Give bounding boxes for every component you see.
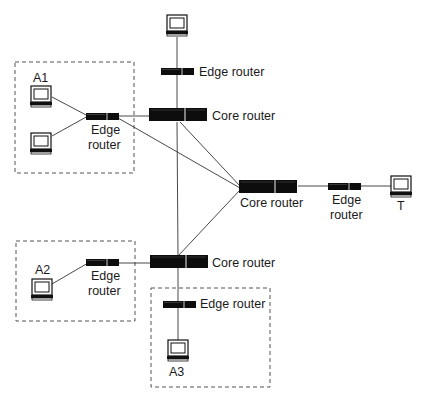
label-core-right: Core router: [240, 196, 303, 210]
edge-router-icon: [163, 301, 196, 308]
label-edge-t-line1: Edge: [332, 193, 361, 207]
label-edge-a2-line1: Edge: [91, 269, 120, 283]
label-edge-a1-line2: router: [88, 138, 121, 152]
edge-router-icon: [328, 183, 361, 190]
label-edge-t-line2: router: [330, 208, 363, 222]
label-edge-a1-line1: Edge: [91, 123, 120, 137]
host-computer-icon: [390, 176, 412, 197]
host-computer-icon: [30, 133, 52, 154]
core-router-icon: [150, 255, 208, 268]
host-computer-icon: [31, 279, 53, 300]
label-edge-a3: Edge router: [200, 297, 265, 311]
link-core-top-core-right: [180, 122, 240, 186]
core-router-icon: [239, 180, 297, 193]
network-diagram: Edge router Core router A1 Edge router C…: [0, 0, 427, 401]
edge-router-icon: [86, 259, 119, 266]
edge-router-icon: [161, 68, 194, 75]
label-a2: A2: [35, 263, 50, 277]
host-computer-icon: [30, 86, 52, 107]
core-router-icon: [149, 108, 207, 121]
edge-router-icon: [86, 113, 119, 120]
host-computer-icon: [166, 15, 188, 36]
host-computer-icon: [167, 340, 189, 361]
link-edge-a1-core-right: [118, 118, 240, 188]
label-core-bottom: Core router: [212, 256, 275, 270]
link-a1-1-edge: [52, 97, 88, 116]
link-core-top-core-bottom: [177, 122, 178, 256]
label-edge-top: Edge router: [199, 65, 264, 79]
label-core-top: Core router: [212, 109, 275, 123]
label-edge-a2-line2: router: [88, 284, 121, 298]
link-core-bottom-core-right: [178, 190, 240, 256]
link-a2-edge: [52, 263, 88, 284]
label-t: T: [397, 199, 405, 213]
link-a1-2-edge: [52, 116, 88, 136]
label-a3: A3: [169, 365, 184, 379]
label-a1: A1: [33, 71, 48, 85]
